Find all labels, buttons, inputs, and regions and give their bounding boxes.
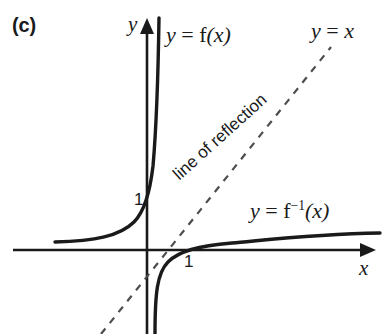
- curve-label-inverse-eq: =: [265, 198, 277, 223]
- line-label-identity-lhs: y: [311, 18, 321, 43]
- x-axis-label: x: [359, 256, 368, 281]
- curve-label-function-eq: =: [181, 22, 193, 47]
- y-axis-arrowhead: [140, 18, 154, 34]
- curve-label-function-fn: f: [199, 22, 206, 47]
- curve-label-inverse-function: y = f−1(x): [250, 198, 329, 224]
- curve-label-function-arg: (x): [207, 22, 231, 47]
- curve-label-inverse-exponent: −1: [291, 198, 306, 213]
- panel-label: (c): [12, 14, 36, 37]
- curve-label-inverse-arg: (x): [305, 198, 329, 223]
- line-label-identity: y = x: [311, 18, 354, 44]
- curve-label-function-lhs: y: [166, 22, 176, 47]
- curve-label-inverse-lhs: y: [250, 198, 260, 223]
- x-axis-arrowhead: [360, 243, 376, 257]
- curve-logarithmic: [155, 233, 380, 334]
- curve-label-function: y = f(x): [166, 22, 231, 48]
- curve-label-inverse-fn: f: [283, 198, 290, 223]
- line-label-identity-eq: =: [326, 18, 338, 43]
- y-axis-tick-label-1: 1: [134, 190, 143, 210]
- line-label-identity-rhs: x: [344, 18, 354, 43]
- x-axis-tick-label-1: 1: [184, 252, 193, 272]
- y-axis-label: y: [128, 12, 137, 37]
